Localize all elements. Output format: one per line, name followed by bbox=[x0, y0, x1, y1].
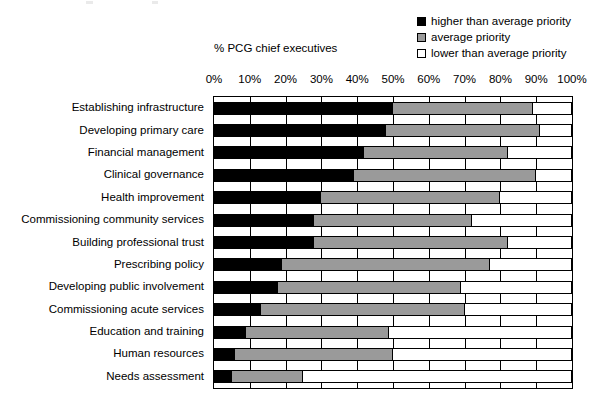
y-category-label: Developing public involvement bbox=[49, 280, 204, 293]
bar-segment bbox=[214, 236, 314, 249]
bar-row bbox=[214, 146, 572, 159]
filled-square-icon bbox=[417, 17, 426, 26]
y-category-label: Human resources bbox=[113, 347, 204, 360]
bar-segment bbox=[465, 303, 572, 316]
bar-segment bbox=[214, 326, 246, 339]
x-tick-label: 30% bbox=[310, 72, 333, 86]
y-category-label: Building professional trust bbox=[72, 236, 204, 249]
bar-segment bbox=[278, 281, 461, 294]
bar-row bbox=[214, 214, 572, 227]
y-category-label: Developing primary care bbox=[79, 124, 204, 137]
x-tick-label: 50% bbox=[381, 72, 404, 86]
bar-segment bbox=[354, 169, 537, 182]
bar-row bbox=[214, 348, 572, 361]
chart-legend: higher than average priority average pri… bbox=[417, 14, 607, 62]
y-category-label: Commissioning community services bbox=[21, 213, 204, 226]
x-tick-label: 70% bbox=[453, 72, 476, 86]
bar-row bbox=[214, 370, 572, 383]
bar-row bbox=[214, 258, 572, 271]
bar-segment bbox=[214, 370, 232, 383]
legend-label-higher: higher than average priority bbox=[431, 15, 571, 28]
x-axis-title: % PCG chief executives bbox=[214, 42, 337, 54]
bar-segment bbox=[490, 258, 572, 271]
bar-segment bbox=[235, 348, 393, 361]
legend-label-lower: lower than average priority bbox=[431, 47, 567, 60]
bar-segment bbox=[282, 258, 490, 271]
scan-artifact bbox=[86, 1, 93, 4]
bar-segment bbox=[461, 281, 572, 294]
bar-segment bbox=[214, 191, 321, 204]
y-category-label: Needs assessment bbox=[106, 370, 204, 383]
bar-segment bbox=[540, 124, 572, 137]
x-tick-label: 40% bbox=[346, 72, 369, 86]
x-tick-label: 0% bbox=[206, 72, 223, 86]
y-category-label: Financial management bbox=[88, 146, 204, 159]
y-category-label: Establishing infrastructure bbox=[72, 101, 204, 114]
empty-square-icon bbox=[417, 49, 426, 58]
y-category-label: Commissioning acute services bbox=[49, 303, 204, 316]
legend-item-higher: higher than average priority bbox=[417, 14, 607, 29]
bar-segment bbox=[214, 102, 393, 115]
bar-segment bbox=[321, 191, 500, 204]
bar-segment bbox=[214, 348, 235, 361]
bar-segment bbox=[214, 169, 354, 182]
y-category-label: Prescribing policy bbox=[114, 258, 204, 271]
legend-item-average: average priority bbox=[417, 30, 607, 45]
bar-segment bbox=[533, 102, 572, 115]
scan-artifact bbox=[152, 1, 158, 4]
y-category-label: Education and training bbox=[90, 325, 204, 338]
bar-segment bbox=[472, 214, 572, 227]
bar-segment bbox=[536, 169, 572, 182]
gray-square-icon bbox=[417, 33, 426, 42]
x-tick-label: 90% bbox=[525, 72, 548, 86]
x-tick-label: 10% bbox=[238, 72, 261, 86]
bar-segment bbox=[214, 214, 314, 227]
bar-segment bbox=[386, 124, 540, 137]
y-category-label: Clinical governance bbox=[104, 168, 204, 181]
bar-segment bbox=[389, 326, 572, 339]
bar-segment bbox=[508, 236, 572, 249]
bar-segment bbox=[314, 236, 507, 249]
plot-area bbox=[213, 96, 573, 389]
bar-segment bbox=[214, 281, 278, 294]
bar-segment bbox=[214, 303, 261, 316]
bar-segment bbox=[314, 214, 472, 227]
x-tick-label: 80% bbox=[489, 72, 512, 86]
bar-segment bbox=[214, 258, 282, 271]
bar-segment bbox=[364, 146, 507, 159]
bar-segment bbox=[393, 102, 533, 115]
bar-row bbox=[214, 303, 572, 316]
x-tick-label: 100% bbox=[557, 72, 586, 86]
bar-segment bbox=[508, 146, 572, 159]
x-axis-tick-labels: 0%10%20%30%40%50%60%70%80%90%100% bbox=[0, 72, 607, 88]
bar-row bbox=[214, 281, 572, 294]
bar-segment bbox=[232, 370, 304, 383]
y-category-label: Health improvement bbox=[101, 191, 204, 204]
bar-row bbox=[214, 191, 572, 204]
x-tick-label: 60% bbox=[417, 72, 440, 86]
bar-row bbox=[214, 102, 572, 115]
bar-segment bbox=[393, 348, 572, 361]
bar-segment bbox=[500, 191, 572, 204]
bar-segment bbox=[214, 124, 386, 137]
bar-row bbox=[214, 236, 572, 249]
bar-row bbox=[214, 169, 572, 182]
bar-segment bbox=[246, 326, 389, 339]
bar-segment bbox=[303, 370, 572, 383]
bar-row bbox=[214, 326, 572, 339]
x-tick-label: 20% bbox=[274, 72, 297, 86]
bar-segment bbox=[261, 303, 465, 316]
legend-label-average: average priority bbox=[431, 31, 510, 44]
legend-item-lower: lower than average priority bbox=[417, 46, 607, 61]
bar-row bbox=[214, 124, 572, 137]
bar-segment bbox=[214, 146, 364, 159]
stacked-bar-chart: higher than average priority average pri… bbox=[0, 0, 607, 406]
